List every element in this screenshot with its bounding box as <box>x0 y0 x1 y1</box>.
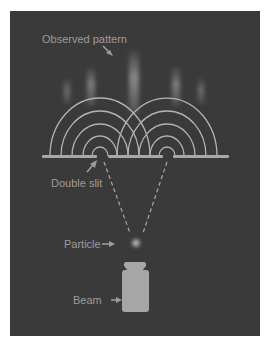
observed-pattern-label: Observed pattern <box>42 33 127 45</box>
observed-pattern-fringes <box>64 48 204 114</box>
beam-source <box>122 262 149 312</box>
beam-label: Beam <box>73 294 102 306</box>
double-slit-barrier <box>42 155 229 158</box>
particle <box>129 236 143 250</box>
particle-paths <box>104 162 167 233</box>
double-slit-arrow <box>87 165 93 172</box>
double-slit-label: Double slit <box>51 177 102 189</box>
double-slit-diagram <box>0 0 269 349</box>
particle-label: Particle <box>64 238 101 250</box>
